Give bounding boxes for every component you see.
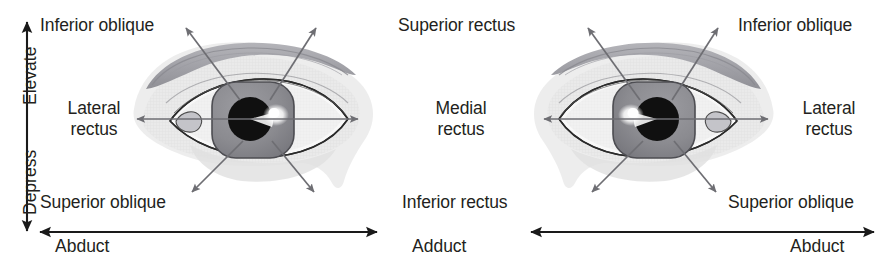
extraocular-muscle-diagram: Elevate Depress Inferior oblique Lateral… (0, 0, 878, 260)
right-label-lateral-rectus-line2: rectus (805, 119, 852, 139)
right-axis-label-abduct: Abduct (790, 236, 844, 257)
right-eye-illustration (534, 42, 774, 188)
vertical-axis-label-depress: Depress (20, 150, 41, 215)
right-label-lateral-rectus: Lateral rectus (783, 98, 875, 140)
left-axis-label-adduct: Adduct (412, 236, 466, 257)
center-label-medial-rectus-line1: Medial (436, 98, 487, 118)
left-axis-label-abduct: Abduct (55, 236, 109, 257)
left-eye-illustration (133, 42, 373, 188)
right-label-lateral-rectus-line1: Lateral (803, 98, 856, 118)
left-label-lateral-rectus-line2: rectus (70, 119, 117, 139)
left-label-lateral-rectus: Lateral rectus (48, 98, 140, 140)
center-label-medial-rectus-line2: rectus (437, 119, 484, 139)
center-label-superior-rectus: Superior rectus (398, 15, 515, 36)
right-label-superior-oblique: Superior oblique (728, 192, 854, 213)
center-label-medial-rectus: Medial rectus (415, 98, 507, 140)
left-label-inferior-oblique: Inferior oblique (40, 15, 154, 36)
right-label-inferior-oblique: Inferior oblique (738, 15, 852, 36)
vertical-axis-label-elevate: Elevate (20, 47, 41, 105)
left-label-lateral-rectus-line1: Lateral (68, 98, 121, 118)
left-label-superior-oblique: Superior oblique (40, 192, 166, 213)
center-label-inferior-rectus: Inferior rectus (402, 192, 507, 213)
